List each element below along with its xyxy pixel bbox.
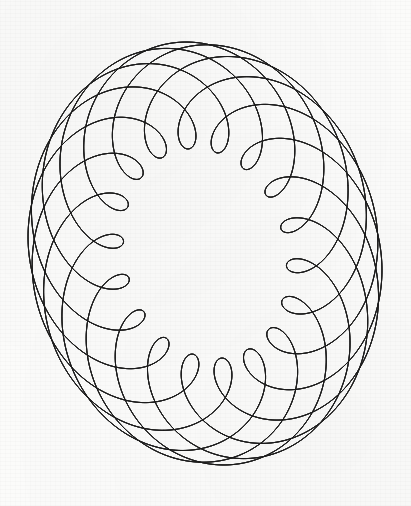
envelope-curve	[44, 42, 379, 430]
envelope-curve	[44, 42, 379, 430]
envelope-curve	[31, 77, 366, 465]
envelope-curve	[28, 56, 350, 458]
envelope-curve	[28, 57, 350, 459]
envelope-curve	[60, 48, 382, 450]
envelope-curve	[44, 42, 379, 430]
envelope-curve	[31, 77, 366, 465]
envelope-curve	[31, 77, 366, 465]
artwork-canvas	[0, 0, 411, 506]
envelope-curve	[28, 56, 350, 458]
envelope-curve	[44, 42, 379, 430]
envelope-curve	[60, 48, 382, 450]
curve-family	[28, 42, 382, 465]
envelope-curve	[60, 48, 382, 450]
envelope-curve	[44, 42, 379, 430]
envelope-curve	[31, 77, 366, 465]
envelope-curve	[28, 56, 350, 458]
envelope-curve	[44, 42, 379, 430]
harmonograph-figure	[0, 0, 411, 506]
envelope-curve	[31, 77, 366, 465]
envelope-curve	[28, 57, 350, 459]
envelope-curve	[28, 56, 350, 458]
envelope-curve	[60, 48, 382, 450]
envelope-curve	[60, 48, 382, 450]
envelope-curve	[31, 77, 366, 465]
envelope-curve	[60, 48, 382, 450]
